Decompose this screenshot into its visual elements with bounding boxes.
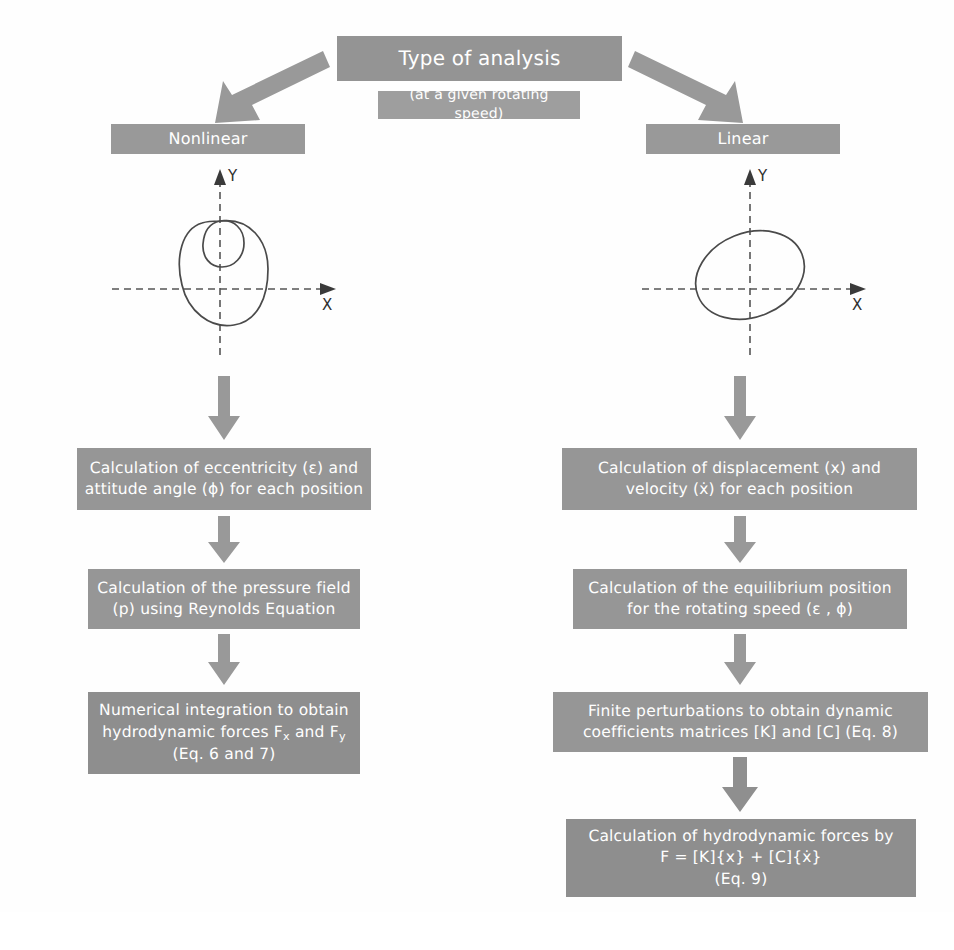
process-box-left-2: Calculation of the pressure field(p) usi… <box>88 569 360 629</box>
title-box: Type of analysis <box>337 36 622 81</box>
arrow-right-plot-to-step1 <box>722 376 758 442</box>
y-axis-label: Y <box>227 167 238 185</box>
x-axis-arrowhead <box>850 283 866 295</box>
arrow-right-step2-to-step3 <box>722 634 758 686</box>
caption-strip <box>0 912 954 950</box>
flowchart-canvas: Type of analysis (at a given rotating sp… <box>0 0 954 950</box>
process-box-right-3: Finite perturbations to obtain dynamicco… <box>553 692 928 752</box>
nonlinear-orbit-plot: Y X <box>110 165 360 360</box>
branch-box-linear: Linear <box>646 124 840 154</box>
process-box-right-2-label: Calculation of the equilibrium positionf… <box>579 578 901 621</box>
arrow-left-plot-to-step1 <box>206 376 242 442</box>
arrow-title-to-linear <box>628 45 753 130</box>
title-box-label: Type of analysis <box>343 45 616 73</box>
process-box-left-1-label: Calculation of eccentricity (ε) andattit… <box>83 458 365 501</box>
x-axis-label: X <box>322 296 332 314</box>
process-box-left-1: Calculation of eccentricity (ε) andattit… <box>77 448 371 510</box>
process-box-right-4-label: Calculation of hydrodynamic forces byF =… <box>572 826 910 890</box>
arrow-right-step1-to-step2 <box>722 516 758 564</box>
process-box-right-1: Calculation of displacement (x) andveloc… <box>562 448 917 510</box>
process-box-right-1-label: Calculation of displacement (x) andveloc… <box>568 458 911 501</box>
subtitle-box-label: (at a given rotating speed) <box>384 86 574 125</box>
subtitle-box: (at a given rotating speed) <box>378 91 580 119</box>
process-box-right-2: Calculation of the equilibrium positionf… <box>573 569 907 629</box>
arrow-right-step3-to-step4 <box>720 757 760 813</box>
nonlinear-orbit-inner-loop <box>203 221 244 267</box>
x-axis-arrowhead <box>320 283 336 295</box>
arrow-title-to-nonlinear <box>205 45 330 130</box>
x-axis-label: X <box>852 296 862 314</box>
y-axis-arrowhead <box>744 169 756 185</box>
process-box-right-3-label: Finite perturbations to obtain dynamicco… <box>559 701 922 744</box>
process-box-left-3: Numerical integration to obtainhydrodyna… <box>88 692 360 774</box>
branch-label-linear: Linear <box>652 128 834 150</box>
y-axis-label: Y <box>757 167 768 185</box>
linear-orbit-plot: Y X <box>640 165 890 360</box>
nonlinear-orbit-outer-curve <box>179 221 268 326</box>
process-box-left-3-label: Numerical integration to obtainhydrodyna… <box>94 700 354 765</box>
arrow-left-step1-to-step2 <box>206 516 242 564</box>
branch-box-nonlinear: Nonlinear <box>111 124 305 154</box>
branch-label-nonlinear: Nonlinear <box>117 128 299 150</box>
process-box-right-4: Calculation of hydrodynamic forces byF =… <box>566 819 916 897</box>
y-axis-arrowhead <box>214 169 226 185</box>
process-box-left-2-label: Calculation of the pressure field(p) usi… <box>94 578 354 621</box>
arrow-left-step2-to-step3 <box>206 634 242 686</box>
